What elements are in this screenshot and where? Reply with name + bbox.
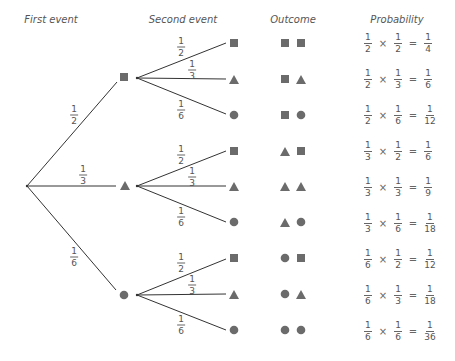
fraction: 16 (364, 249, 372, 270)
numerator: 1 (394, 285, 402, 296)
root-node (26, 185, 28, 187)
denominator: 6 (365, 332, 371, 342)
second-branch-label: 1 2 (177, 145, 185, 166)
numerator: 1 (426, 213, 434, 224)
result-fraction: 118 (424, 213, 435, 234)
numerator: 1 (426, 321, 434, 332)
denominator: 6 (395, 224, 401, 234)
probability-row: 16 × 16 = 136 (364, 318, 436, 344)
numerator: 1 (424, 33, 432, 44)
denominator: 2 (395, 152, 401, 162)
triangle-icon (296, 290, 306, 299)
circle-icon (281, 290, 290, 299)
denominator: 2 (395, 260, 401, 270)
times-sign: × (379, 38, 387, 49)
denominator: 3 (395, 188, 401, 198)
denominator: 3 (365, 188, 371, 198)
times-sign: × (379, 110, 387, 121)
denominator: 2 (178, 264, 184, 274)
times-sign: × (379, 146, 387, 157)
numerator: 1 (177, 253, 185, 264)
circle-icon (281, 326, 290, 335)
second-branch-label: 1 3 (188, 167, 196, 188)
denominator: 6 (425, 152, 431, 162)
times-sign: × (379, 326, 387, 337)
second-branch-label: 1 6 (177, 100, 185, 121)
result-fraction: 118 (424, 285, 435, 306)
equals-sign: = (409, 182, 417, 193)
numerator: 1 (426, 105, 434, 116)
circle-icon (281, 254, 290, 263)
fraction: 13 (364, 141, 372, 162)
circle-icon (230, 111, 239, 120)
times-sign: × (379, 218, 387, 229)
fraction: 13 (394, 285, 402, 306)
probability-row: 12 × 12 = 14 (364, 30, 432, 56)
result-fraction: 19 (424, 177, 432, 198)
denominator: 3 (80, 176, 86, 186)
probability-row: 16 × 13 = 118 (364, 282, 436, 308)
triangle-icon (280, 147, 290, 156)
circle-icon (120, 291, 129, 300)
times-sign: × (379, 254, 387, 265)
denominator: 6 (425, 80, 431, 90)
denominator: 2 (178, 156, 184, 166)
denominator: 3 (365, 224, 371, 234)
numerator: 1 (394, 105, 402, 116)
fraction: 12 (394, 33, 402, 54)
denominator: 3 (395, 80, 401, 90)
square-icon (281, 111, 289, 119)
numerator: 1 (364, 69, 372, 80)
first-branch-label-square: 1 2 (70, 105, 78, 126)
second-branch-label: 1 3 (188, 60, 196, 81)
fraction: 12 (394, 249, 402, 270)
branch-line (137, 294, 226, 295)
numerator: 1 (426, 285, 434, 296)
square-icon (120, 73, 128, 81)
square-icon (230, 39, 238, 47)
denominator: 3 (189, 71, 195, 81)
numerator: 1 (424, 141, 432, 152)
fraction: 13 (364, 177, 372, 198)
numerator: 1 (364, 213, 372, 224)
denominator: 36 (424, 332, 435, 342)
fraction: 12 (364, 69, 372, 90)
denominator: 3 (395, 296, 401, 306)
branch-line (27, 186, 116, 290)
denominator: 2 (365, 116, 371, 126)
probability-row: 16 × 12 = 112 (364, 246, 436, 272)
numerator: 1 (426, 249, 434, 260)
numerator: 1 (177, 145, 185, 156)
node-point (136, 294, 138, 296)
denominator: 6 (365, 260, 371, 270)
numerator: 1 (364, 177, 372, 188)
result-fraction: 112 (424, 105, 435, 126)
times-sign: × (379, 74, 387, 85)
fraction: 12 (364, 105, 372, 126)
second-branch-label: 1 2 (177, 253, 185, 274)
triangle-icon (120, 181, 130, 190)
fraction: 13 (364, 213, 372, 234)
triangle-icon (280, 182, 290, 191)
denominator: 12 (424, 260, 435, 270)
probability-row: 13 × 16 = 118 (364, 210, 436, 236)
fraction: 13 (394, 69, 402, 90)
equals-sign: = (409, 110, 417, 121)
square-icon (281, 39, 289, 47)
denominator: 6 (71, 258, 77, 268)
fraction: 13 (394, 177, 402, 198)
fraction: 16 (364, 285, 372, 306)
numerator: 1 (364, 285, 372, 296)
denominator: 3 (189, 178, 195, 188)
numerator: 1 (364, 33, 372, 44)
triangle-icon (280, 218, 290, 227)
triangle-icon (229, 290, 239, 299)
times-sign: × (379, 182, 387, 193)
denominator: 18 (424, 224, 435, 234)
numerator: 1 (177, 100, 185, 111)
equals-sign: = (409, 38, 417, 49)
numerator: 1 (364, 249, 372, 260)
circle-icon (230, 218, 239, 227)
result-fraction: 16 (424, 69, 432, 90)
result-fraction: 136 (424, 321, 435, 342)
